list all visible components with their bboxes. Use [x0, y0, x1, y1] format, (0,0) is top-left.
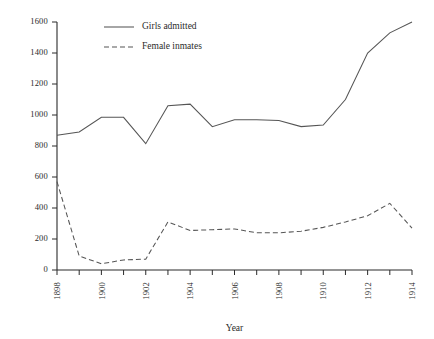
series-line-0: [57, 22, 412, 144]
y-tick-label-200: 200: [35, 233, 48, 243]
y-tick-label-1200: 1200: [30, 78, 48, 88]
chart-canvas: 0200400600800100012001400160018981900190…: [0, 0, 434, 339]
x-tick-label-1908: 1908: [274, 282, 284, 300]
y-tick-label-1600: 1600: [30, 16, 48, 26]
y-tick-label-1400: 1400: [30, 47, 48, 57]
legend-label-1: Female inmates: [142, 41, 202, 51]
legend-label-0: Girls admitted: [142, 21, 197, 31]
y-tick-label-1000: 1000: [30, 109, 48, 119]
x-axis-title: Year: [226, 323, 244, 333]
y-tick-label-0: 0: [44, 264, 48, 274]
y-tick-label-600: 600: [35, 171, 48, 181]
x-tick-label-1904: 1904: [185, 281, 195, 299]
y-tick-label-400: 400: [35, 202, 48, 212]
x-tick-label-1898: 1898: [52, 282, 62, 300]
x-tick-label-1902: 1902: [141, 282, 151, 300]
x-tick-label-1914: 1914: [407, 281, 417, 299]
x-tick-label-1906: 1906: [230, 282, 240, 300]
x-tick-label-1910: 1910: [318, 282, 328, 300]
x-tick-label-1900: 1900: [97, 282, 107, 300]
series-line-1: [57, 182, 412, 264]
line-chart: 0200400600800100012001400160018981900190…: [0, 0, 434, 339]
y-tick-label-800: 800: [35, 140, 48, 150]
x-tick-label-1912: 1912: [363, 282, 373, 300]
